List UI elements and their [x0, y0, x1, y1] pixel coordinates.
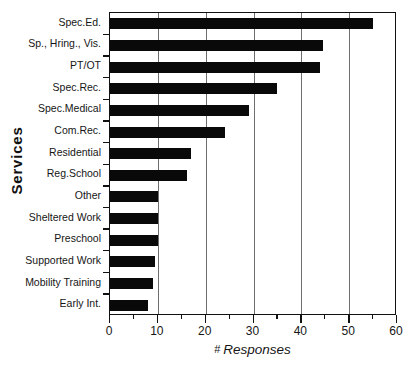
y-tick	[103, 142, 109, 143]
y-tick	[103, 55, 109, 56]
x-tick-minor	[229, 315, 230, 319]
x-tick-minor	[276, 315, 277, 319]
y-tick	[103, 272, 109, 273]
x-tick-minor	[133, 315, 134, 319]
bar	[110, 18, 373, 29]
x-tick-major	[109, 315, 110, 323]
category-label: Sp., Hring., Vis.	[0, 38, 101, 49]
bar	[110, 127, 225, 138]
y-tick	[103, 207, 109, 208]
y-tick	[103, 34, 109, 35]
category-label: Supported Work	[0, 255, 101, 266]
x-tick-label: 0	[89, 324, 129, 338]
y-tick	[103, 293, 109, 294]
category-label: Sheltered Work	[0, 212, 101, 223]
plot-area	[109, 12, 396, 315]
bar	[110, 256, 155, 267]
x-axis-title-text: Responses	[223, 342, 291, 357]
y-tick	[103, 120, 109, 121]
y-tick	[103, 228, 109, 229]
category-label: Residential	[0, 147, 101, 158]
x-tick-minor	[324, 315, 325, 319]
category-label-list: Spec.Ed.Sp., Hring., Vis.PT/OTSpec.Rec.S…	[4, 12, 105, 315]
x-tick-major	[348, 315, 349, 323]
gridline-40	[301, 13, 302, 314]
y-tick	[103, 77, 109, 78]
gridline-30	[254, 13, 255, 314]
bar	[110, 62, 320, 73]
x-tick-major	[396, 315, 397, 323]
y-tick	[103, 164, 109, 165]
x-axis-title: #Responses	[109, 342, 396, 357]
y-tick	[103, 250, 109, 251]
bar	[110, 235, 158, 246]
x-tick-label: 30	[233, 324, 273, 338]
category-label: PT/OT	[0, 60, 101, 71]
x-tick-label: 20	[185, 324, 225, 338]
x-tick-major	[253, 315, 254, 323]
x-tick-minor	[181, 315, 182, 319]
x-axis-ticks	[109, 315, 396, 324]
bar	[110, 278, 153, 289]
category-label: Spec.Medical	[0, 103, 101, 114]
gridline-50	[349, 13, 350, 314]
bar	[110, 83, 277, 94]
bar-chart-figure: Services Spec.Ed.Sp., Hring., Vis.PT/OTS…	[0, 0, 415, 372]
category-label: Com.Rec.	[0, 125, 101, 136]
bar	[110, 170, 187, 181]
x-tick-major	[157, 315, 158, 323]
y-tick	[103, 185, 109, 186]
bar	[110, 148, 191, 159]
x-tick-major	[300, 315, 301, 323]
x-tick-label: 60	[376, 324, 415, 338]
category-label: Preschool	[0, 233, 101, 244]
y-axis-ticks	[103, 12, 110, 315]
bar	[110, 300, 148, 311]
x-tick-label: 50	[328, 324, 368, 338]
x-axis-tick-labels: 0102030405060	[109, 324, 396, 340]
y-tick	[103, 99, 109, 100]
x-tick-label: 40	[280, 324, 320, 338]
bar	[110, 105, 249, 116]
category-label: Other	[0, 190, 101, 201]
category-label: Spec.Ed.	[0, 17, 101, 28]
x-tick-minor	[372, 315, 373, 319]
bar	[110, 191, 158, 202]
bar	[110, 40, 323, 51]
category-label: Mobility Training	[0, 277, 101, 288]
hash-symbol: #	[214, 343, 220, 355]
gridline-10	[158, 13, 159, 314]
category-label: Spec.Rec.	[0, 82, 101, 93]
gridline-20	[206, 13, 207, 314]
x-tick-major	[205, 315, 206, 323]
category-label: Reg.School	[0, 168, 101, 179]
category-label: Early Int.	[0, 298, 101, 309]
bar	[110, 213, 158, 224]
x-tick-label: 10	[137, 324, 177, 338]
